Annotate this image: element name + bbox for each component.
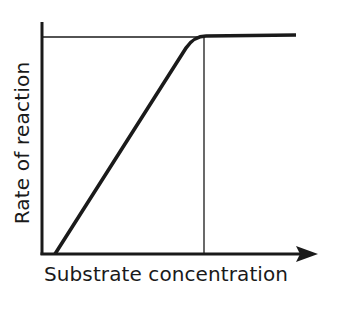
rate-curve [55, 35, 296, 254]
chart-container: Rate of reaction Substrate concentration [0, 0, 339, 312]
y-axis-label: Rate of reaction [10, 62, 34, 225]
x-axis-label: Substrate concentration [44, 262, 288, 286]
